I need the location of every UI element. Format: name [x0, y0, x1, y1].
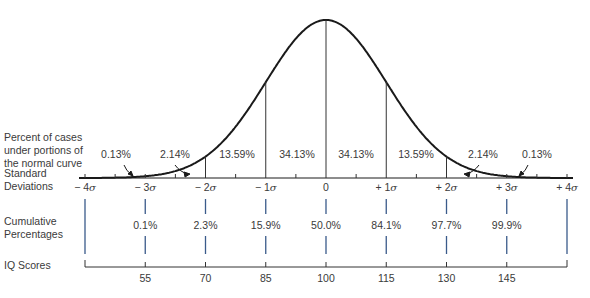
segment-percentage-label: 2.14%: [468, 148, 498, 161]
sd-row-label-line1: Standard: [4, 167, 53, 180]
cumulative-percentage-label: 2.3%: [194, 219, 218, 232]
iq-ticks: [145, 262, 507, 267]
percent-row-label: Percent of cases under portions of the n…: [4, 131, 83, 170]
segment-percentage-label: 34.13%: [338, 148, 374, 161]
cumulative-percentage-label: 0.1%: [133, 219, 157, 232]
segment-percentage-label: 13.59%: [398, 148, 434, 161]
iq-score-label: 100: [317, 272, 335, 285]
segment-percentage-label: 2.14%: [160, 148, 190, 161]
cumulative-percentage-label: 84.1%: [371, 219, 401, 232]
sd-tick-label: 0: [323, 181, 329, 194]
sd-tick-label: + 4σ: [556, 181, 578, 194]
sd-row-label-line2: Deviations: [4, 180, 53, 193]
percent-row-label-line2: under portions of: [4, 144, 83, 157]
sd-tick-label: + 2σ: [436, 181, 458, 194]
sd-tick-label: − 2σ: [195, 181, 217, 194]
cumulative-percentage-label: 99.9%: [492, 219, 522, 232]
sd-tick-label: − 4σ: [74, 181, 96, 194]
cumulative-row-label-line1: Cumulative: [4, 215, 63, 228]
cumulative-percentage-label: 15.9%: [251, 219, 281, 232]
percent-row-label-line1: Percent of cases: [4, 131, 83, 144]
sd-tick-label: + 3σ: [496, 181, 518, 194]
cumulative-row-label: Cumulative Percentages: [4, 215, 63, 241]
iq-score-label: 115: [378, 272, 395, 285]
cumulative-percentage-label: 97.7%: [432, 219, 462, 232]
iq-score-label: 145: [498, 272, 516, 285]
iq-score-label: 70: [200, 272, 212, 285]
iq-score-label: 85: [260, 272, 272, 285]
cumulative-percentage-label: 50.0%: [311, 219, 341, 232]
sd-tick-label: − 1σ: [255, 181, 277, 194]
iq-score-label: 130: [438, 272, 456, 285]
segment-percentage-label: 0.13%: [522, 148, 552, 161]
sd-tick-label: + 1σ: [375, 181, 397, 194]
segment-percentage-label: 13.59%: [219, 148, 255, 161]
segment-percentage-label: 34.13%: [279, 148, 315, 161]
segment-percentage-label: 0.13%: [101, 148, 131, 161]
sd-row-label: Standard Deviations: [4, 167, 53, 193]
sd-tick-label: − 3σ: [134, 181, 156, 194]
iq-score-label: 55: [139, 272, 151, 285]
cumulative-row-label-line2: Percentages: [4, 228, 63, 241]
iq-row-label: IQ Scores: [4, 259, 51, 272]
